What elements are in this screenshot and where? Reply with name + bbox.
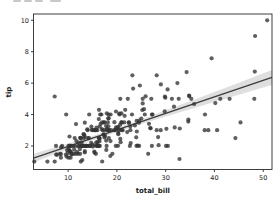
data-point bbox=[131, 87, 135, 91]
data-point bbox=[128, 144, 132, 148]
data-point bbox=[253, 70, 257, 74]
data-point bbox=[67, 134, 71, 138]
data-point bbox=[139, 116, 143, 120]
data-point bbox=[117, 128, 121, 132]
data-point bbox=[163, 95, 167, 99]
data-point bbox=[134, 135, 138, 139]
data-point bbox=[82, 133, 86, 137]
data-point bbox=[203, 128, 207, 132]
data-point bbox=[83, 121, 87, 125]
data-point bbox=[104, 148, 108, 152]
data-point bbox=[157, 143, 161, 147]
x-tick-label: 40 bbox=[210, 174, 218, 182]
y-tick-label: 4 bbox=[25, 111, 29, 119]
data-point bbox=[164, 144, 168, 148]
data-point bbox=[108, 139, 112, 143]
data-point bbox=[150, 112, 154, 116]
data-point bbox=[137, 121, 141, 125]
data-point bbox=[45, 160, 49, 164]
data-point bbox=[54, 144, 58, 148]
x-axis-label: total_bill bbox=[136, 187, 170, 195]
data-point bbox=[112, 120, 116, 124]
figure: 1020304050246810 total_bill tip bbox=[0, 0, 278, 204]
data-point bbox=[98, 112, 102, 116]
data-point bbox=[170, 97, 174, 101]
data-point bbox=[253, 34, 257, 38]
data-point bbox=[125, 130, 129, 134]
data-point bbox=[118, 97, 122, 101]
data-point bbox=[97, 136, 101, 140]
data-point bbox=[192, 102, 196, 106]
data-point bbox=[93, 128, 97, 132]
data-point bbox=[119, 120, 123, 124]
cropped-content-fragment bbox=[0, 0, 278, 4]
data-point bbox=[164, 127, 168, 131]
data-point bbox=[149, 97, 153, 101]
data-point bbox=[135, 129, 139, 133]
data-point bbox=[238, 120, 242, 124]
data-point bbox=[140, 108, 144, 112]
data-point bbox=[177, 157, 181, 161]
data-point bbox=[83, 150, 87, 154]
data-point bbox=[185, 70, 189, 74]
data-point bbox=[150, 144, 154, 148]
data-point bbox=[203, 112, 207, 116]
data-point bbox=[67, 144, 71, 148]
data-point bbox=[65, 148, 69, 152]
data-point bbox=[79, 160, 83, 164]
data-point bbox=[138, 83, 142, 87]
data-point bbox=[73, 144, 77, 148]
data-point bbox=[32, 160, 36, 164]
data-point bbox=[106, 116, 110, 120]
data-point bbox=[265, 18, 269, 22]
x-tick-label: 30 bbox=[162, 174, 170, 182]
data-point bbox=[215, 128, 219, 132]
data-point bbox=[53, 160, 57, 164]
data-point bbox=[134, 144, 138, 148]
x-tick-label: 50 bbox=[259, 174, 267, 182]
data-point bbox=[97, 117, 101, 121]
data-point bbox=[117, 112, 121, 116]
data-point bbox=[105, 144, 109, 148]
data-point bbox=[218, 97, 222, 101]
data-point bbox=[130, 73, 134, 77]
data-point bbox=[127, 121, 131, 125]
data-point bbox=[148, 126, 152, 130]
data-point bbox=[108, 154, 112, 158]
y-tick-label: 8 bbox=[25, 48, 29, 56]
data-point bbox=[178, 126, 182, 130]
cropped-text-mark bbox=[24, 0, 32, 2]
data-point bbox=[144, 94, 148, 98]
data-point bbox=[206, 128, 210, 132]
data-point bbox=[74, 122, 78, 126]
data-point bbox=[106, 124, 110, 128]
data-point bbox=[143, 112, 147, 116]
data-point bbox=[100, 159, 104, 163]
data-point bbox=[97, 108, 101, 112]
data-point bbox=[210, 56, 214, 60]
data-point bbox=[106, 120, 110, 124]
data-point bbox=[109, 112, 113, 116]
data-point bbox=[86, 128, 90, 132]
data-point bbox=[88, 144, 92, 148]
data-point bbox=[172, 105, 176, 109]
data-point bbox=[163, 109, 167, 113]
data-point bbox=[155, 73, 159, 77]
data-point bbox=[126, 97, 130, 101]
data-point bbox=[159, 82, 163, 86]
data-point bbox=[98, 125, 102, 129]
scatter-plot: 1020304050246810 total_bill tip bbox=[0, 0, 278, 204]
data-point bbox=[101, 132, 105, 136]
data-point bbox=[128, 124, 132, 128]
data-point bbox=[87, 112, 91, 116]
data-point bbox=[103, 128, 107, 132]
y-tick-label: 10 bbox=[21, 17, 29, 25]
data-point bbox=[64, 112, 68, 116]
y-tick-label: 2 bbox=[25, 142, 29, 150]
data-point bbox=[233, 136, 237, 140]
data-point bbox=[109, 128, 113, 132]
data-point bbox=[59, 156, 63, 160]
data-point bbox=[252, 97, 256, 101]
data-point bbox=[93, 144, 97, 148]
data-point bbox=[119, 140, 123, 144]
